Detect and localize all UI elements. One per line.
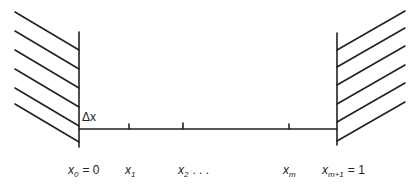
label-x1: x1 [125, 164, 135, 179]
label-xm1: xm+1= 1 [322, 164, 369, 179]
label-x2-sub: 2 [184, 170, 188, 179]
label-xm: xm [283, 164, 296, 179]
label-xm-sub: m [289, 170, 296, 179]
grid-diagram [0, 0, 420, 190]
delta-x-label: Δx [82, 111, 96, 123]
label-x0-suffix: = 0 [82, 163, 99, 177]
left-wall-hatching [15, 12, 79, 142]
label-x0-sub: 0 [74, 170, 78, 179]
label-x2-suffix: . . . [192, 163, 209, 177]
label-xm1-sub: m+1 [328, 170, 344, 179]
label-x2: x2. . . [178, 164, 213, 179]
delta-x-text: Δx [82, 110, 96, 124]
label-x0: x0= 0 [68, 164, 103, 179]
right-wall-hatching [337, 11, 405, 141]
label-xm1-suffix: = 1 [348, 163, 365, 177]
label-x1-sub: 1 [131, 170, 135, 179]
